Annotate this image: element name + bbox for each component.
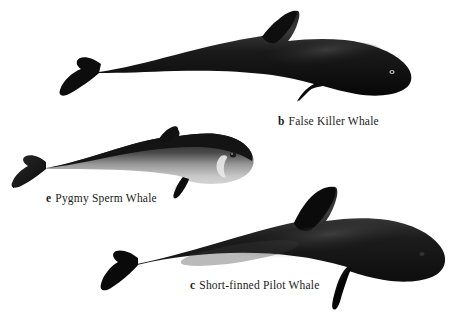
caption-name-short-finned-pilot-whale: Short-finned Pilot Whale [199, 279, 319, 291]
pilot-whale-eye [419, 252, 424, 256]
caption-letter-b: b [278, 115, 285, 127]
caption-short-finned-pilot-whale: cShort-finned Pilot Whale [190, 279, 320, 291]
caption-name-pygmy-sperm-whale: Pygmy Sperm Whale [55, 192, 157, 204]
caption-pygmy-sperm-whale: ePygmy Sperm Whale [46, 192, 157, 204]
pilot-whale-tail-fluke [101, 250, 138, 290]
caption-letter-c: c [190, 279, 195, 291]
whale-illustration-plate: bFalse Killer Whale ePygmy Sperm Whale c… [0, 0, 457, 315]
caption-false-killer-whale: bFalse Killer Whale [278, 115, 379, 127]
figure-short-finned-pilot-whale [0, 0, 457, 315]
caption-letter-e: e [46, 192, 51, 204]
caption-name-false-killer-whale: False Killer Whale [289, 115, 379, 127]
